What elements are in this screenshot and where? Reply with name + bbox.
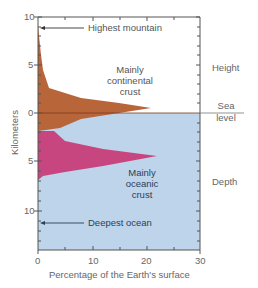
x-tick-label: 0 — [35, 255, 40, 266]
oceanic-crust-label: Mainly oceanic crust — [114, 167, 170, 200]
depth-label: Depth — [212, 176, 237, 187]
hypsometric-chart — [0, 0, 258, 288]
x-tick-label: 30 — [195, 255, 206, 266]
y-tick-label: 10 — [24, 11, 35, 22]
x-tick-label: 20 — [141, 255, 152, 266]
sea-label: Sea — [210, 100, 242, 112]
continental-label-line3: crust — [98, 86, 162, 97]
deepest-ocean-label: Deepest ocean — [88, 217, 152, 228]
level-label: level — [210, 112, 242, 124]
highest-mountain-arrow — [40, 26, 84, 30]
x-axis-label: Percentage of the Earth's surface — [49, 269, 190, 280]
oceanic-label-line1: Mainly — [114, 167, 170, 178]
height-label: Height — [212, 62, 239, 73]
y-tick-label: 5 — [28, 155, 33, 166]
continental-crust-label: Mainly continental crust — [98, 64, 162, 97]
y-axis-label: Kilometers — [9, 108, 20, 158]
continental-label-line2: continental — [98, 75, 162, 86]
oceanic-label-line2: oceanic — [114, 178, 170, 189]
y-tick-label: 10 — [24, 205, 35, 216]
continental-label-line1: Mainly — [98, 64, 162, 75]
y-tick-label: 5 — [28, 59, 33, 70]
y-tick-label: 0 — [28, 107, 33, 118]
x-tick-label: 10 — [88, 255, 99, 266]
highest-mountain-label: Highest mountain — [88, 22, 162, 33]
sea-level-label: Sea level — [210, 100, 242, 124]
oceanic-label-line3: crust — [114, 189, 170, 200]
